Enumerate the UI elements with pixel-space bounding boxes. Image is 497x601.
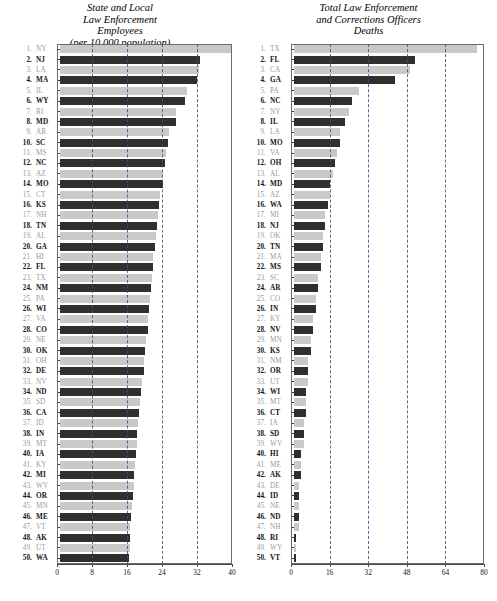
bar-row-state-abbr: PA xyxy=(270,87,288,95)
bar-sd xyxy=(294,430,304,438)
bar-row-label-ne: 29.NE xyxy=(0,336,57,344)
bar-row: 7.RI xyxy=(0,106,240,116)
bar-row: 44.ID xyxy=(240,491,497,501)
bar-row: 21.MA xyxy=(240,252,497,262)
bar-row-rank: 33. xyxy=(251,378,266,386)
bar-track xyxy=(294,480,497,490)
bar-row-rank: 35. xyxy=(251,398,266,406)
axis-tick-label-40: 40 xyxy=(228,568,235,577)
bar-track xyxy=(294,522,497,532)
bar-row-label-nh: 17.NH xyxy=(0,211,57,219)
bar-ut xyxy=(294,378,308,386)
bar-track xyxy=(60,553,240,563)
bar-row: 11.VA xyxy=(240,148,497,158)
bar-az xyxy=(60,170,163,178)
bar-row: 15.CT xyxy=(0,189,240,199)
bar-row-state-abbr: CA xyxy=(36,409,54,417)
chart-title-right: Total Law Enforcement and Corrections Of… xyxy=(240,0,497,44)
bar-row: 45.MN xyxy=(0,501,240,511)
bar-row-label-nh: 47.NH xyxy=(240,523,291,531)
bar-row-label-va: 11.VA xyxy=(240,149,291,157)
bar-track xyxy=(294,117,497,127)
bar-row: 12.OH xyxy=(240,158,497,168)
bar-oh xyxy=(60,357,144,365)
bar-row-rank: 24. xyxy=(251,284,266,292)
bar-row-rank: 22. xyxy=(251,263,266,271)
bar-row-rank: 43. xyxy=(17,482,32,490)
bar-ms xyxy=(294,263,321,271)
bar-row-label-me: 46.ME xyxy=(0,513,57,521)
bar-track xyxy=(294,252,497,262)
bar-row-state-abbr: CA xyxy=(270,66,288,74)
bar-row-state-abbr: CT xyxy=(270,409,288,417)
bar-track xyxy=(60,169,240,179)
bar-row-label-de: 32.DE xyxy=(0,367,57,375)
bar-row-state-abbr: AL xyxy=(270,170,288,178)
bar-row: 19.AL xyxy=(0,231,240,241)
bar-row-rank: 27. xyxy=(251,315,266,323)
bar-mo xyxy=(60,180,163,188)
bar-nd xyxy=(294,513,299,521)
bar-track xyxy=(294,366,497,376)
bar-row: 8.IL xyxy=(240,117,497,127)
bar-row-state-abbr: OH xyxy=(36,357,54,365)
bar-row-rank: 12. xyxy=(251,159,266,167)
bar-row-state-abbr: AK xyxy=(36,534,54,542)
bar-mi xyxy=(60,471,134,479)
bar-in xyxy=(294,305,316,313)
bar-track xyxy=(294,335,497,345)
bar-row: 24.NM xyxy=(0,283,240,293)
bar-row-state-abbr: RI xyxy=(270,534,288,542)
bar-track xyxy=(60,127,240,137)
bar-ct xyxy=(60,191,160,199)
bar-row-label-me: 41.ME xyxy=(240,461,291,469)
bar-track xyxy=(60,491,240,501)
bar-ny xyxy=(60,45,232,53)
bar-row-state-abbr: IL xyxy=(270,118,288,126)
bar-row-rank: 47. xyxy=(17,523,32,531)
bar-row-label-al: 13.AL xyxy=(240,170,291,178)
bar-row-label-tx: 1.TX xyxy=(240,45,291,53)
bar-row-rank: 17. xyxy=(17,211,32,219)
bar-row-rank: 24. xyxy=(17,284,32,292)
bar-row: 50.WA xyxy=(0,553,240,563)
bar-row-state-abbr: CT xyxy=(36,191,54,199)
bar-or xyxy=(294,367,308,375)
bar-row-label-pa: 25.PA xyxy=(0,295,57,303)
bar-row: 23.SC xyxy=(240,273,497,283)
bar-row: 18.TN xyxy=(0,221,240,231)
bar-row: 26.WI xyxy=(0,304,240,314)
bar-ga xyxy=(60,243,155,251)
bar-row-rank: 17. xyxy=(251,211,266,219)
bar-row-state-abbr: NJ xyxy=(270,222,288,230)
bar-row-rank: 25. xyxy=(251,295,266,303)
bar-row-state-abbr: DE xyxy=(270,482,288,490)
bar-row: 29.MN xyxy=(240,335,497,345)
bar-row-rank: 41. xyxy=(17,461,32,469)
bar-track xyxy=(294,241,497,251)
bar-track xyxy=(60,54,240,64)
bar-row: 39.WV xyxy=(240,439,497,449)
bar-track xyxy=(294,221,497,231)
bar-row-rank: 30. xyxy=(17,347,32,355)
bar-row-rank: 22. xyxy=(17,263,32,271)
bar-ak xyxy=(294,471,301,479)
bar-row-rank: 9. xyxy=(251,128,266,136)
bar-nv xyxy=(294,326,313,334)
bar-row-state-abbr: CO xyxy=(270,295,288,303)
bar-row-state-abbr: ND xyxy=(36,388,54,396)
bar-row: 33.NV xyxy=(0,377,240,387)
bar-row-state-abbr: GA xyxy=(270,76,288,84)
bar-row-rank: 2. xyxy=(17,56,32,64)
bar-row-state-abbr: FL xyxy=(270,56,288,64)
bar-track xyxy=(294,75,497,85)
bar-de xyxy=(294,482,299,490)
bar-row-label-nd: 46.ND xyxy=(240,513,291,521)
bar-row-label-or: 44.OR xyxy=(0,492,57,500)
bar-track xyxy=(294,314,497,324)
bar-row: 36.CA xyxy=(0,408,240,418)
bar-row-rank: 41. xyxy=(251,461,266,469)
bar-track xyxy=(294,65,497,75)
bar-row-label-nj: 18.NJ xyxy=(240,222,291,230)
bar-md xyxy=(60,118,176,126)
